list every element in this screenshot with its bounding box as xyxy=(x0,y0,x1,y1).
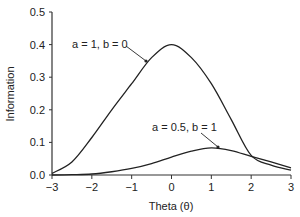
curve-a05-b1 xyxy=(52,148,291,175)
annotations: a = 1, b = 0a = 0.5, b = 1 xyxy=(72,38,220,149)
y-tick-label: 0.3 xyxy=(30,71,45,83)
x-tick-label: 2 xyxy=(248,181,254,193)
annotation-a05-b1: a = 0.5, b = 1 xyxy=(152,121,217,133)
curves xyxy=(52,45,291,175)
x-tick-label: −3 xyxy=(46,181,59,193)
arrow-a05-b1 xyxy=(201,133,218,147)
annotation-a1-b0: a = 1, b = 0 xyxy=(72,38,128,50)
arrowhead-a05-b1 xyxy=(216,145,219,148)
x-tick-label: −1 xyxy=(125,181,138,193)
y-tick-label: 0.0 xyxy=(30,169,45,181)
curve-a1-b0 xyxy=(52,45,291,174)
x-tick-label: 1 xyxy=(208,181,214,193)
x-tick-label: 3 xyxy=(288,181,294,193)
axes: 0.00.10.20.30.40.5−3−2−10123 xyxy=(30,6,294,193)
item-information-chart: 0.00.10.20.30.40.5−3−2−10123 a = 1, b = … xyxy=(0,0,300,217)
y-tick-label: 0.2 xyxy=(30,104,45,116)
y-tick-label: 0.4 xyxy=(30,39,45,51)
x-axis-label: Theta (θ) xyxy=(149,200,194,212)
y-axis-label: Information xyxy=(4,66,16,121)
x-tick-label: −2 xyxy=(86,181,99,193)
y-tick-label: 0.1 xyxy=(30,136,45,148)
y-tick-label: 0.5 xyxy=(30,6,45,18)
arrowhead-a1-b0 xyxy=(144,59,147,62)
x-tick-label: 0 xyxy=(168,181,174,193)
arrow-a1-b0 xyxy=(126,46,146,61)
